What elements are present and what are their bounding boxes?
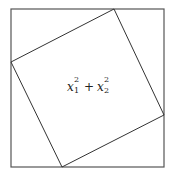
term-x1-squared: x 2 1 (67, 80, 81, 94)
term2-exponent: 2 (104, 75, 109, 84)
plus-operator: + (84, 80, 94, 94)
term2-base: x (97, 80, 104, 94)
term-x2-squared: x 2 2 (97, 80, 111, 94)
sum-of-squares-label: x 2 1 + x 2 2 (66, 77, 112, 97)
term2-subscript: 2 (104, 86, 109, 95)
term1-base: x (67, 80, 74, 94)
term1-subscript: 1 (74, 86, 79, 95)
term1-exponent: 2 (74, 75, 79, 84)
